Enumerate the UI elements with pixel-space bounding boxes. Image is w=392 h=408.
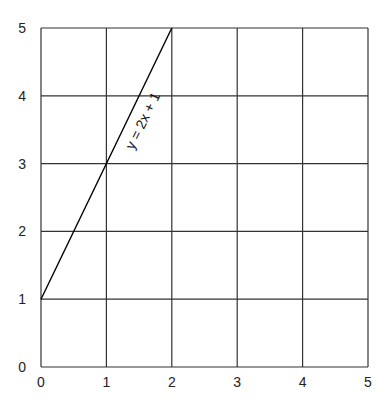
y-tick-label: 2 (18, 223, 26, 239)
y-tick-label: 5 (18, 20, 26, 36)
x-tick-label: 2 (168, 374, 176, 390)
x-tick-label: 1 (103, 374, 111, 390)
x-tick-label: 0 (37, 374, 45, 390)
line-chart: 012345012345 y = 2x + 1 (0, 0, 392, 408)
x-tick-label: 3 (233, 374, 241, 390)
x-tick-label: 5 (364, 374, 372, 390)
annotations: y = 2x + 1 (122, 89, 163, 151)
equation-label: y = 2x + 1 (122, 89, 163, 151)
tick-labels: 012345012345 (18, 20, 372, 390)
y-tick-label: 3 (18, 156, 26, 172)
y-tick-label: 4 (18, 88, 26, 104)
x-tick-label: 4 (299, 374, 307, 390)
y-tick-label: 1 (18, 291, 26, 307)
y-tick-label: 0 (18, 359, 26, 375)
